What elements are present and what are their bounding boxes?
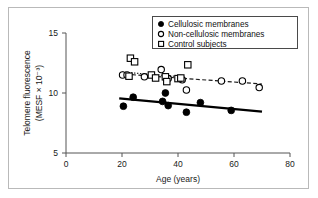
data-point (183, 87, 189, 93)
data-series-layer (119, 55, 262, 116)
data-point (131, 59, 137, 65)
legend-marker-open-circle-icon (158, 31, 163, 36)
data-point (141, 74, 147, 80)
series-open-circle (119, 66, 262, 93)
data-point (218, 78, 224, 84)
data-point (165, 102, 172, 109)
x-axis: 0 20 40 60 80 (64, 153, 295, 169)
data-point (228, 107, 235, 114)
x-tick-label-40: 40 (173, 159, 183, 169)
data-point (197, 99, 204, 106)
x-axis-title: Age (years) (156, 174, 200, 184)
chart-canvas: 15 10 5 0 20 40 60 80 Age (years) Telome… (0, 0, 318, 198)
data-point (162, 90, 169, 97)
y-tick-label-5: 5 (53, 148, 58, 158)
data-point (130, 94, 137, 101)
legend-label-control: Control subjects (168, 40, 227, 49)
data-point (183, 109, 190, 116)
x-tick-label-80: 80 (285, 159, 295, 169)
y-axis-title-line2: (MESF × 10⁻³) (34, 65, 44, 121)
figure-root: 15 10 5 0 20 40 60 80 Age (years) Telome… (0, 0, 318, 198)
x-tick-label-0: 0 (64, 159, 69, 169)
trendline-filled-circle (119, 98, 262, 111)
data-point (164, 78, 170, 84)
data-point (152, 75, 158, 81)
data-point (126, 73, 132, 79)
data-point (178, 75, 184, 81)
data-point (256, 84, 262, 90)
legend-marker-filled-circle-icon (158, 21, 163, 26)
legend-marker-open-square-icon (159, 41, 164, 46)
y-axis-title-line1: Telomere fluorescence (22, 50, 32, 136)
legend-label-cellulosic: Cellulosic membranes (168, 20, 249, 29)
series-filled-circle (120, 90, 235, 116)
data-point (185, 62, 191, 68)
y-tick-label-10: 10 (49, 88, 59, 98)
y-axis: 15 10 5 (49, 28, 66, 158)
data-point (120, 103, 127, 110)
data-point (239, 78, 245, 84)
y-tick-label-15: 15 (49, 28, 59, 38)
data-point (158, 66, 164, 72)
x-tick-label-20: 20 (117, 159, 127, 169)
x-tick-label-60: 60 (229, 159, 239, 169)
legend-label-non-cellulosic: Non-cellulosic membranes (168, 30, 264, 39)
chart-legend: Cellulosic membranes Non-cellulosic memb… (153, 17, 298, 50)
